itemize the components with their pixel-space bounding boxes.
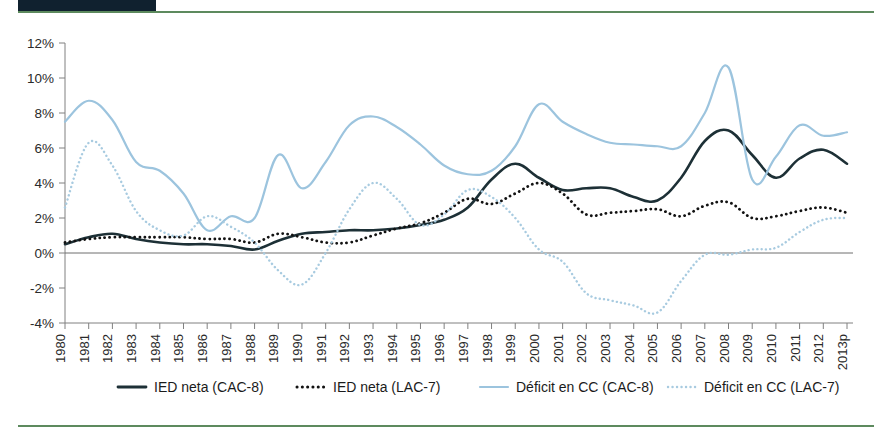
x-axis-tick-label: 1989 (266, 334, 281, 363)
x-axis-tick-label: 2005 (645, 334, 660, 363)
x-axis-tick-label: 2006 (669, 334, 684, 363)
x-axis-tick-label: 1988 (243, 334, 258, 363)
x-axis-tick-label: 1986 (195, 334, 210, 363)
x-axis-tick-label: 1993 (361, 334, 376, 363)
x-axis-tick-label: 1994 (385, 334, 400, 363)
top-banner (0, 0, 892, 14)
banner-divider-rule (18, 11, 874, 13)
chart-container: -4%-2%0%2%4%6%8%10%12%198019811982198319… (0, 14, 892, 424)
y-axis-tick-label: 12% (27, 36, 54, 51)
legend-item-2[interactable]: IED neta (LAC-7) (297, 379, 440, 395)
x-axis-tick-label: 2002 (574, 334, 589, 363)
x-axis-tick-label: 1984 (148, 334, 163, 363)
x-axis-tick-label: 1998 (480, 334, 495, 363)
footer-divider-rule (18, 425, 874, 427)
chart-page: -4%-2%0%2%4%6%8%10%12%198019811982198319… (0, 0, 892, 439)
series-line-1 (65, 130, 847, 250)
banner-tag-block (18, 0, 156, 11)
y-axis-tick-label: -2% (30, 281, 54, 296)
x-axis-tick-label: 2007 (693, 334, 708, 363)
x-axis-tick-label: 1982 (100, 334, 115, 363)
page-title-clipped (170, 0, 870, 1)
y-axis-tick-label: 6% (34, 141, 54, 156)
x-axis-tick-label: 1992 (337, 334, 352, 363)
x-axis-tick-label: 2003 (598, 334, 613, 363)
x-axis-tick-label: 1985 (171, 334, 186, 363)
x-axis-tick-label: 1996 (432, 334, 447, 363)
legend-label-2: IED neta (LAC-7) (333, 379, 440, 395)
y-axis-tick-label: 4% (34, 176, 54, 191)
legend-label-4: Déficit en CC (LAC-7) (704, 379, 839, 395)
y-axis-tick-label: 10% (27, 71, 54, 86)
x-axis-tick-label: 2009 (740, 334, 755, 363)
legend-item-4[interactable]: Déficit en CC (LAC-7) (668, 379, 839, 395)
x-axis-tick-label: 2001 (551, 334, 566, 363)
x-axis-tick-label: 2004 (622, 334, 637, 363)
x-axis-tick-label: 2010 (764, 334, 779, 363)
y-axis-tick-label: -4% (30, 316, 54, 331)
legend-label-1: IED neta (CAC-8) (154, 379, 264, 395)
x-axis-tick-label: 1987 (219, 334, 234, 363)
y-axis-tick-label: 8% (34, 106, 54, 121)
x-axis-tick-label: 1999 (503, 334, 518, 363)
x-axis-tick-label: 2012 (811, 334, 826, 363)
y-axis-tick-label: 0% (34, 246, 54, 261)
legend-item-1[interactable]: IED neta (CAC-8) (118, 379, 264, 395)
x-axis-tick-label: 1981 (77, 334, 92, 363)
y-axis-tick-label: 2% (34, 211, 54, 226)
x-axis-tick-label: 1991 (314, 334, 329, 363)
series-layer (65, 65, 847, 313)
x-axis-tick-label: 2011 (788, 334, 803, 362)
legend-label-3: Déficit en CC (CAC-8) (516, 379, 654, 395)
x-axis-tick-label: 2013p (835, 334, 850, 370)
x-axis-tick-label: 1983 (124, 334, 139, 363)
x-axis-tick-label: 1980 (53, 334, 68, 363)
line-chart: -4%-2%0%2%4%6%8%10%12%198019811982198319… (0, 14, 892, 424)
x-axis-tick-label: 2000 (527, 334, 542, 363)
legend-item-3[interactable]: Déficit en CC (CAC-8) (480, 379, 654, 395)
x-axis-tick-label: 1990 (290, 334, 305, 363)
series-line-4 (65, 141, 847, 314)
x-axis-tick-label: 1997 (456, 334, 471, 363)
x-axis-tick-label: 1995 (408, 334, 423, 363)
x-axis-tick-label: 2008 (717, 334, 732, 363)
